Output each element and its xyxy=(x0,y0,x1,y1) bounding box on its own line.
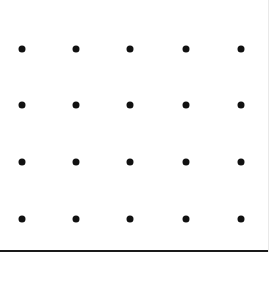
grid-dot xyxy=(183,46,190,53)
grid-dot xyxy=(238,159,245,166)
grid-dot xyxy=(238,46,245,53)
grid-dot xyxy=(73,216,80,223)
plot-area xyxy=(0,0,271,291)
grid-dot xyxy=(238,216,245,223)
grid-dot xyxy=(183,216,190,223)
right-axis-rule xyxy=(268,0,269,252)
grid-dot xyxy=(19,159,26,166)
grid-dot xyxy=(127,102,134,109)
grid-dot xyxy=(73,159,80,166)
grid-dot xyxy=(19,102,26,109)
grid-dot xyxy=(127,159,134,166)
grid-dot xyxy=(127,216,134,223)
grid-dot xyxy=(73,102,80,109)
grid-dot xyxy=(183,159,190,166)
grid-dot xyxy=(73,46,80,53)
dot-grid-canvas xyxy=(0,0,271,291)
grid-dot xyxy=(19,46,26,53)
grid-dot xyxy=(183,102,190,109)
grid-dot xyxy=(19,216,26,223)
grid-dot xyxy=(127,46,134,53)
bottom-axis-rule xyxy=(0,250,269,252)
grid-dot xyxy=(238,102,245,109)
